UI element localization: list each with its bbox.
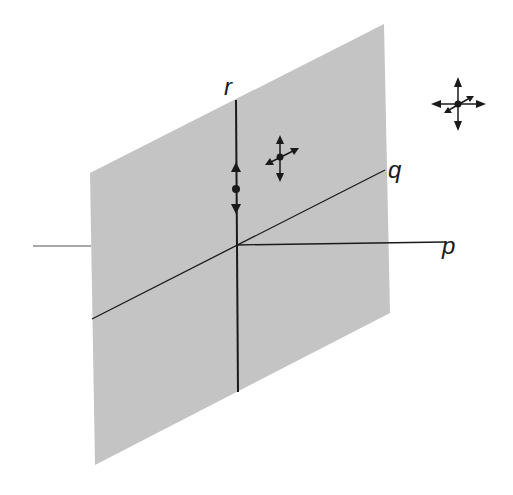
q-axis-label: q (388, 156, 402, 183)
q-back-arrow-icon (444, 107, 452, 113)
left-arrow-icon (431, 100, 441, 108)
down-arrow-icon (454, 121, 462, 131)
point-dot-icon (455, 101, 462, 108)
point-dot-icon (277, 154, 284, 161)
r-axis-label: r (224, 73, 233, 100)
point-dot-icon (232, 185, 240, 193)
p-axis-label: p (441, 232, 455, 259)
r-axis-point-marker (231, 162, 241, 214)
free-point-marker (431, 77, 486, 131)
coordinate-plane-diagram: r q p (0, 0, 513, 495)
up-arrow-icon (454, 77, 462, 87)
right-arrow-icon (476, 100, 486, 108)
